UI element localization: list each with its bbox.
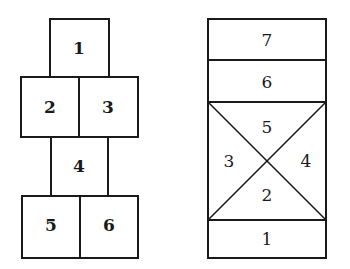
- cell-label: 3: [102, 97, 114, 117]
- cell-label: 2: [44, 97, 56, 117]
- outer-frame: [208, 19, 326, 258]
- cell-label: 5: [262, 117, 273, 137]
- cell-label: 6: [103, 215, 115, 235]
- cell-label: 1: [73, 38, 85, 58]
- cell-label: 6: [262, 72, 273, 92]
- cell-label: 2: [262, 185, 273, 205]
- cell-label: 7: [262, 30, 273, 50]
- hopscotch-diagrams: 1 2 3 4 5 6 7 6 5 3 4 2 1: [0, 0, 350, 269]
- hopscotch-layout-b: [208, 19, 326, 258]
- cell-label: 3: [224, 151, 235, 171]
- layout-b-labels: 7 6 5 3 4 2 1: [224, 30, 312, 249]
- cell-label: 4: [73, 156, 85, 176]
- cell-label: 5: [45, 215, 57, 235]
- cell-label: 4: [301, 151, 312, 171]
- cell-label: 1: [262, 229, 273, 249]
